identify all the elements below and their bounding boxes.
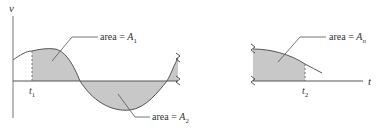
area-an-region [253, 49, 305, 81]
area-an-label: area = An [329, 31, 366, 45]
area-a2-label: area = A2 [152, 111, 189, 125]
velocity-time-area-diagram: v t t1 t2 area = A1 area = A2 area = An [0, 0, 376, 130]
t2-label: t2 [302, 85, 309, 99]
area-a1-label: area = A1 [100, 31, 137, 45]
t1-label: t1 [29, 85, 36, 99]
v-axis-label: v [9, 2, 14, 14]
t-axis-label: t [368, 75, 372, 87]
